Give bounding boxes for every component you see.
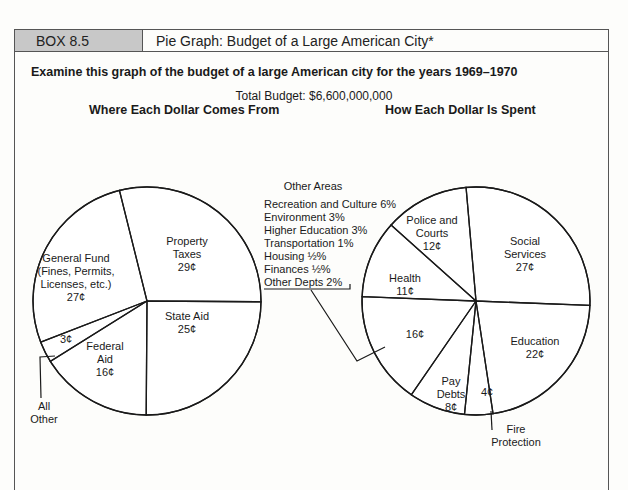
other-areas-item: Environment 3% — [264, 211, 345, 223]
other-areas-item: Housing ½% — [264, 250, 327, 262]
other-areas-item: Higher Education 3% — [264, 224, 368, 236]
fire-protection-callout: FireProtection — [491, 423, 541, 448]
slice-label-all-other: 3¢ — [60, 333, 72, 345]
all-other-callout: AllOther — [30, 400, 58, 425]
other-areas-item: Other Depts 2% — [264, 276, 342, 288]
other-areas-item: Finances ½% — [264, 263, 331, 275]
other-areas-item: Recreation and Culture 6% — [264, 198, 396, 210]
slice-label-fire-protection: 4¢ — [481, 386, 493, 398]
slice-label-other-areas: 16¢ — [406, 328, 424, 340]
other-areas-item: Transportation 1% — [264, 237, 354, 249]
other-areas-title: Other Areas — [284, 180, 343, 192]
